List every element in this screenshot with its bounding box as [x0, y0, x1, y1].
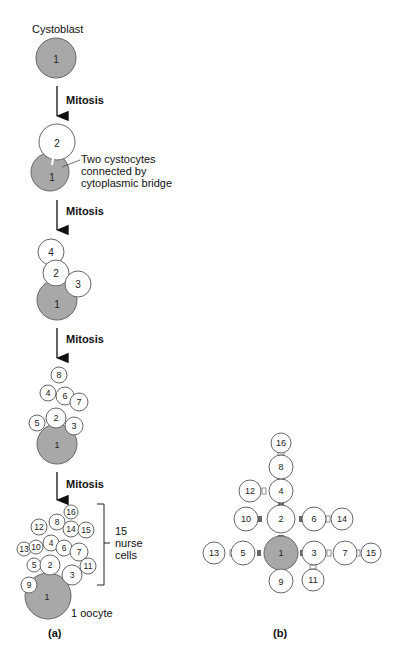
cell-number: 4 [49, 538, 54, 548]
cell-number: 14 [337, 514, 347, 524]
nurse-count-label: nurse [115, 537, 143, 549]
cell-number: 4 [278, 486, 283, 496]
nurse-count-label: cells [115, 549, 138, 561]
cell-number: 16 [66, 507, 76, 517]
cell-number: 13 [209, 548, 219, 558]
cell-number: 5 [240, 548, 245, 558]
cell-number: 8 [56, 370, 61, 380]
cell-number: 6 [311, 514, 316, 524]
cyst-formation-diagram: Cystoblast 1 Mitosis 2 1 Two cystocytes … [0, 0, 400, 661]
panel-b-label: (b) [273, 627, 287, 639]
cell-number: 7 [76, 397, 81, 407]
cell-number: 11 [84, 561, 93, 571]
nurse-count-label: 15 [115, 525, 127, 537]
mitosis-label: Mitosis [66, 205, 104, 217]
annotation-text: Two cystocytes [81, 153, 156, 165]
cell-number: 2 [48, 560, 53, 570]
panel-a-label: (a) [48, 627, 62, 639]
cell-number: 1 [49, 172, 55, 183]
cell-number: 5 [32, 560, 37, 570]
cell-number: 7 [342, 548, 347, 558]
cell-number: 12 [245, 486, 255, 496]
annotation-text: connected by [81, 165, 147, 177]
bridge [52, 158, 53, 165]
mitosis-label: Mitosis [66, 94, 104, 106]
mitosis-label: Mitosis [66, 478, 104, 490]
cell-number: 5 [34, 418, 39, 428]
cell-number: 1 [53, 54, 59, 65]
cell-number: 12 [34, 522, 44, 532]
nurse-cells-bracket [97, 504, 104, 585]
mitosis-label: Mitosis [66, 333, 104, 345]
cell-number: 8 [278, 462, 283, 472]
cell-number: 1 [44, 592, 49, 602]
cell-number: 4 [48, 247, 54, 258]
cell-number: 1 [54, 299, 60, 310]
cell-number: 9 [27, 580, 32, 590]
panel-a: Cystoblast 1 Mitosis 2 1 Two cystocytes … [17, 23, 172, 639]
cell-number: 10 [31, 542, 41, 552]
cell-number: 6 [62, 543, 67, 553]
cell-number: 2 [53, 413, 58, 423]
cell-number: 14 [66, 524, 76, 534]
cell-number: 4 [45, 388, 50, 398]
cell-number: 16 [276, 438, 286, 448]
cell-number: 10 [241, 514, 251, 524]
cystoblast-label: Cystoblast [32, 23, 83, 35]
cell-number: 3 [70, 570, 75, 580]
cell-number: 3 [71, 421, 76, 431]
cell-number: 3 [311, 548, 316, 558]
cell-number: 1 [278, 548, 283, 558]
cell-number: 11 [308, 575, 317, 585]
cell-number: 6 [62, 391, 67, 401]
cell-number: 2 [54, 138, 60, 149]
cell-number: 2 [53, 268, 59, 279]
cell-number: 1 [54, 440, 59, 450]
cell-number: 3 [75, 279, 81, 290]
cell-number: 15 [81, 525, 91, 535]
annotation-text: cytoplasmic bridge [81, 177, 172, 189]
cell-number: 8 [55, 517, 60, 527]
cell-number: 15 [366, 548, 376, 558]
cell-number: 7 [77, 547, 82, 557]
cell-number: 2 [278, 514, 283, 524]
cell-number: 9 [278, 577, 283, 587]
panel-b: 1 2 3 4 5 6 7 8 9 10 11 12 13 14 15 16 (… [203, 433, 381, 639]
oocyte-label: 1 oocyte [71, 607, 113, 619]
cell-number: 13 [19, 544, 29, 554]
